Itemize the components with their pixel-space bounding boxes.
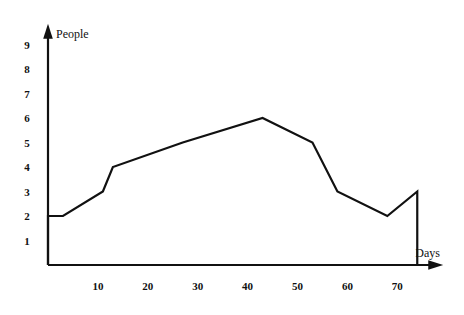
x-tick-label: 10 [92, 280, 104, 292]
y-tick-label: 4 [24, 161, 30, 173]
y-tick-label: 9 [24, 39, 30, 51]
x-tick-label: 50 [292, 280, 304, 292]
y-tick-label: 6 [24, 112, 30, 124]
y-axis-arrowhead [43, 24, 53, 39]
x-axis-tick-labels: 10203040506070 [92, 280, 403, 292]
y-tick-label: 3 [24, 186, 30, 198]
step-series-path [48, 118, 417, 265]
x-tick-label: 40 [242, 280, 254, 292]
chart-canvas: People 123456789 Days 10203040506070 [0, 0, 464, 315]
y-tick-label: 1 [24, 235, 30, 247]
x-tick-label: 60 [342, 280, 354, 292]
x-tick-label: 20 [142, 280, 154, 292]
y-tick-label: 2 [24, 210, 30, 222]
x-tick-label: 30 [192, 280, 204, 292]
x-tick-label: 70 [392, 280, 404, 292]
step-chart-figure: People 123456789 Days 10203040506070 [0, 0, 464, 315]
y-axis-tick-labels: 123456789 [24, 39, 30, 247]
y-tick-label: 8 [24, 63, 30, 75]
x-axis-title: Days [415, 246, 440, 260]
x-axis-arrowhead [428, 260, 443, 270]
y-tick-label: 5 [24, 137, 30, 149]
x-axis-group: Days 10203040506070 [48, 246, 443, 292]
y-tick-label: 7 [24, 88, 30, 100]
y-axis-title: People [56, 27, 89, 41]
y-axis-group: People 123456789 [24, 24, 88, 265]
